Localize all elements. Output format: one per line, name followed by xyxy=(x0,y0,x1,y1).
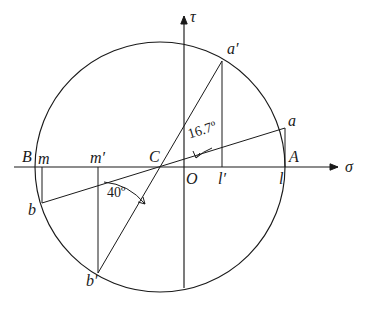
angle-label-40: 40º xyxy=(107,185,125,201)
point-label-A: A xyxy=(289,148,299,166)
point-label-l: l xyxy=(279,170,283,188)
axis-label-tau: τ xyxy=(190,8,196,26)
point-label-a-prime: a′ xyxy=(227,40,239,58)
point-label-m-prime: m′ xyxy=(90,149,105,167)
mohr-circle-figure: B A C m m′ l′ l a b a′ b′ σ τ O 16.7º 40… xyxy=(0,0,365,309)
point-label-m: m xyxy=(38,150,50,168)
tau-axis-arrowhead xyxy=(181,16,187,24)
point-label-a: a xyxy=(288,112,296,130)
point-label-l-prime: l′ xyxy=(218,170,226,188)
point-label-B: B xyxy=(22,148,32,166)
point-label-b-prime: b′ xyxy=(86,272,98,290)
diagram-canvas xyxy=(0,0,365,309)
point-label-C: C xyxy=(149,148,160,166)
origin-label-O: O xyxy=(186,170,198,188)
sigma-axis-arrowhead xyxy=(330,164,338,170)
axis-label-sigma: σ xyxy=(345,158,353,176)
arc-16-7-tip xyxy=(193,151,200,158)
point-label-b: b xyxy=(28,201,36,219)
chord-ab xyxy=(42,128,285,203)
